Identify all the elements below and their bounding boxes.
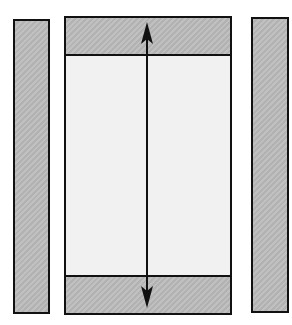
right-side-bar	[251, 17, 289, 313]
left-side-bar	[13, 19, 50, 314]
center-bottom-band	[66, 275, 230, 313]
center-panel	[64, 16, 232, 315]
center-top-band	[66, 18, 230, 56]
